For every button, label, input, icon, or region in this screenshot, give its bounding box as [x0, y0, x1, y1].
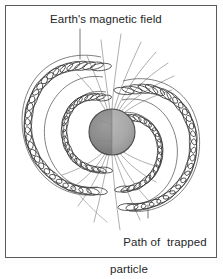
path-label-line2: particle — [110, 263, 207, 277]
path-of-trapped-particle-label: Path of trapped particle — [110, 222, 207, 279]
path-label-line1: Path of trapped — [123, 236, 206, 248]
earth-sphere — [89, 109, 135, 155]
earth-magnetic-field-label: Earth's magnetic field — [50, 13, 162, 27]
